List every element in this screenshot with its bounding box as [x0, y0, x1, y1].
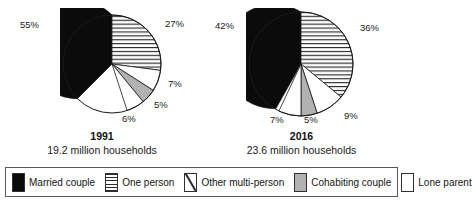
legend-label-cohabiting-couple: Cohabiting couple — [311, 177, 391, 188]
legend-label-married-couple: Married couple — [29, 177, 95, 188]
pie-1991-svg — [60, 8, 164, 120]
legend-label-other-multi-person: Other multi-person — [201, 177, 284, 188]
pie-2016-label-other-multi-person: 9% — [344, 110, 358, 121]
pie-1991-label-married-couple: 55% — [20, 19, 39, 30]
pie-2016-svg — [246, 8, 356, 124]
slice-1991-one-person — [112, 15, 161, 70]
pie-1991-label-other-multi-person: 7% — [168, 78, 182, 89]
pie-2016-label-cohabiting-couple: 5% — [304, 114, 318, 125]
pie-1991-label-one-person: 27% — [165, 18, 184, 29]
pie-1991-label-cohabiting-couple: 5% — [154, 99, 168, 110]
legend-item-married-couple: Married couple — [12, 173, 95, 192]
pie-2016-label-one-person: 36% — [360, 22, 379, 33]
pie-1991-label-lone-parent: 6% — [122, 113, 136, 124]
pie-2016-graphic — [246, 8, 356, 128]
legend-swatch-lone-parent-icon — [401, 173, 414, 192]
pie-2016-households-caption: 23.6 million households — [200, 144, 403, 156]
pie-1991-year-caption: 1991 — [2, 130, 202, 142]
pie-2016-year-caption: 2016 — [200, 130, 403, 142]
legend-item-cohabiting-couple: Cohabiting couple — [294, 173, 391, 192]
legend-swatch-cohabiting-couple-icon — [294, 173, 307, 192]
legend-swatch-one-person-icon — [105, 173, 118, 192]
legend-label-one-person: One person — [122, 177, 174, 188]
chart-legend: Married couple One person Other multi-pe… — [5, 167, 398, 197]
pie-1991-households-caption: 19.2 million households — [2, 144, 202, 156]
legend-label-lone-parent: Lone parent — [418, 177, 471, 188]
pie-2016-label-lone-parent: 7% — [270, 114, 284, 125]
legend-item-lone-parent: Lone parent — [401, 173, 471, 192]
pie-1991-graphic — [60, 8, 164, 124]
pie-2016-label-married-couple: 42% — [215, 20, 234, 31]
legend-swatch-married-couple-icon — [12, 173, 25, 192]
legend-item-other-multi-person: Other multi-person — [184, 173, 284, 192]
legend-item-one-person: One person — [105, 173, 174, 192]
legend-swatch-other-multi-person-icon — [184, 173, 197, 192]
